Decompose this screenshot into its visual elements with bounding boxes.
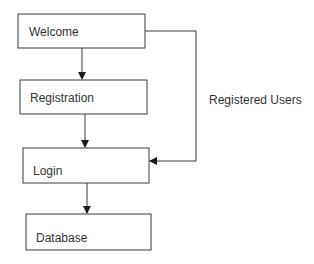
- node-registration: Registration: [20, 80, 147, 114]
- node-database: Database: [26, 214, 151, 250]
- edge-welcome-to-login: [145, 31, 196, 161]
- node-database-label: Database: [36, 231, 88, 245]
- flowchart-diagram: Welcome Registration Login Database Regi…: [0, 0, 314, 264]
- node-welcome: Welcome: [18, 14, 145, 48]
- edge-label-registered-users: Registered Users: [209, 93, 302, 107]
- node-registration-label: Registration: [30, 91, 94, 105]
- node-welcome-label: Welcome: [29, 25, 79, 39]
- node-login-label: Login: [33, 164, 62, 178]
- node-login: Login: [23, 148, 149, 183]
